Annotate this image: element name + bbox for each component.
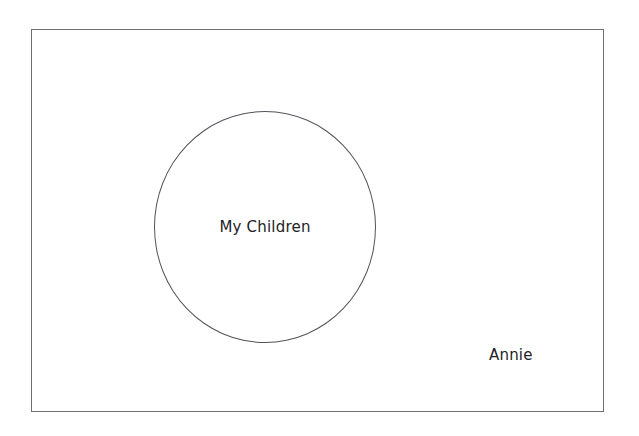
diagram-canvas: My Children Annie [0, 0, 639, 436]
set-label-my-children: My Children [154, 220, 376, 235]
universal-set-rectangle: My Children Annie [31, 29, 604, 412]
element-label-annie: Annie [489, 348, 533, 363]
